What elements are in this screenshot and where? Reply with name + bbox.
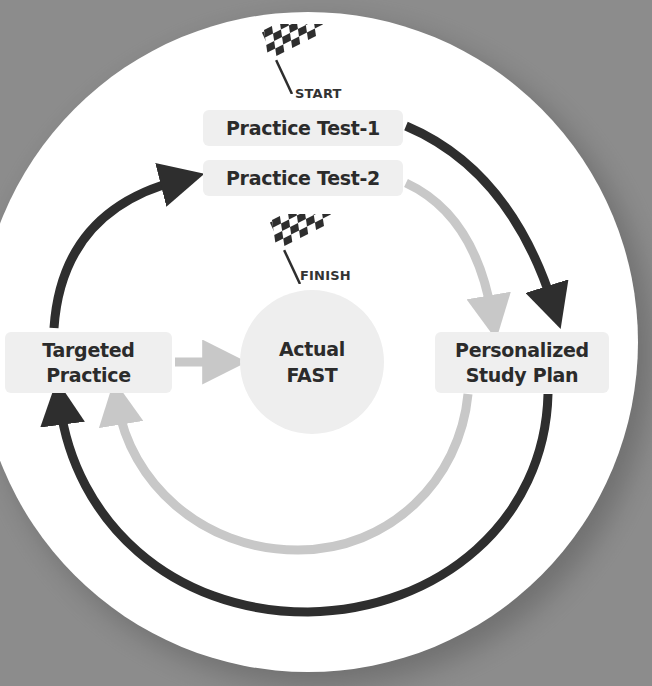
node-personalized-study-plan: Personalized Study Plan xyxy=(435,332,609,393)
node-practice-test-2: Practice Test-2 xyxy=(203,160,403,196)
arrow-test2-to-plan xyxy=(406,183,492,315)
node-label-line1: Personalized xyxy=(455,338,589,363)
start-label: START xyxy=(295,86,342,101)
node-label-line1: Targeted xyxy=(42,338,134,363)
node-label: Practice Test-2 xyxy=(226,167,380,189)
node-practice-test-1: Practice Test-1 xyxy=(203,110,403,146)
node-label: Practice Test-1 xyxy=(226,117,380,139)
node-targeted-practice: Targeted Practice xyxy=(5,332,172,393)
node-label-line2: FAST xyxy=(287,362,338,388)
finish-label: FINISH xyxy=(300,268,351,283)
node-label-line1: Actual xyxy=(279,336,345,362)
node-actual-fast: Actual FAST xyxy=(240,290,384,434)
arrow-targeted-to-test2 xyxy=(54,180,180,328)
checkered-flag-icon xyxy=(258,24,348,94)
node-label-line2: Practice xyxy=(46,363,131,388)
node-label-line2: Study Plan xyxy=(466,363,579,388)
